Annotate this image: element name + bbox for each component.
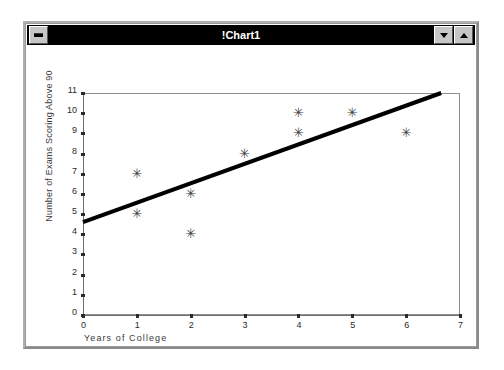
window-inner-frame: !Chart1 01234567891011 01234567 ✳✳✳✳✳✳✳✳… — [25, 23, 477, 347]
x-axis-tick-label: 1 — [135, 321, 140, 330]
x-axis-title: Years of College — [84, 333, 167, 343]
title-bar[interactable]: !Chart1 — [27, 25, 475, 45]
trend-line-segment — [83, 93, 441, 222]
x-axis-tick-label: 4 — [296, 321, 301, 330]
window-menu-icon[interactable] — [29, 26, 48, 44]
y-axis-tick-label: 0 — [72, 308, 77, 317]
x-axis-tick-label: 3 — [243, 321, 248, 330]
y-axis-tick-label: 10 — [67, 106, 77, 115]
y-axis-tick-label: 4 — [72, 227, 77, 236]
chart-window[interactable]: !Chart1 01234567891011 01234567 ✳✳✳✳✳✳✳✳… — [23, 21, 479, 349]
x-axis-tick-label: 6 — [404, 321, 409, 330]
window-title: !Chart1 — [49, 25, 433, 45]
chevron-down-icon — [440, 33, 448, 38]
y-axis-tick-label: 11 — [68, 86, 77, 95]
y-axis-tick-label: 8 — [72, 147, 77, 156]
x-axis-tick-label: 5 — [350, 321, 355, 330]
y-axis-tick-label: 5 — [72, 207, 77, 216]
y-axis-tick-label: 7 — [72, 167, 77, 176]
y-axis-tick-label: 2 — [72, 268, 77, 277]
maximize-button[interactable] — [454, 26, 473, 44]
chevron-up-icon — [460, 33, 468, 38]
x-axis-tick-label: 0 — [81, 321, 86, 330]
y-axis-tick-label: 1 — [72, 288, 77, 297]
x-axis-tick-label: 2 — [189, 321, 194, 330]
y-axis-tick-label: 3 — [72, 247, 77, 256]
minimize-button[interactable] — [434, 26, 453, 44]
y-axis-tick-label: 6 — [72, 187, 77, 196]
window-menu-glyph — [34, 33, 43, 37]
y-axis-title: Number of Exams Scoring Above 90 — [44, 51, 54, 241]
y-axis-tick-label: 9 — [72, 126, 77, 135]
x-axis-tick-label: 7 — [458, 321, 463, 330]
plot-area: 01234567891011 01234567 ✳✳✳✳✳✳✳✳✳ Years … — [27, 45, 475, 345]
chart-client-area: 01234567891011 01234567 ✳✳✳✳✳✳✳✳✳ Years … — [27, 45, 475, 345]
